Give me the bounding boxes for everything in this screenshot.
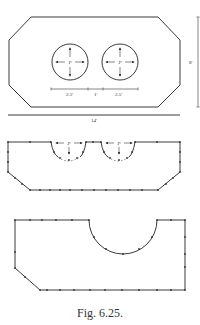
height-dimension: 8' — [189, 17, 200, 107]
pressure-label: P — [67, 141, 71, 146]
width-label: 14' — [91, 118, 97, 123]
mesh-nodes — [7, 141, 181, 191]
width-dimension: 14' — [8, 115, 180, 123]
middle-diagram: P P — [7, 141, 181, 191]
pressure-label: P — [117, 141, 121, 146]
figure-canvas: P P 2.5' 1' 2.5' 8' — [0, 0, 200, 325]
top-diagram: P P 2.5' 1' 2.5' 8' — [8, 17, 200, 123]
bottom-diagram — [14, 219, 186, 291]
hole-right: P — [102, 44, 138, 80]
notch-left-loads: P — [56, 141, 82, 154]
cutout-outline — [15, 220, 185, 290]
spacing-label-left: 2.5' — [66, 92, 73, 97]
notched-outline — [8, 142, 180, 190]
pressure-label: P — [118, 60, 122, 65]
pressure-label: P — [68, 60, 72, 65]
spacing-label-right: 2.5' — [115, 92, 122, 97]
spacing-dimension: 2.5' 1' 2.5' — [51, 88, 138, 98]
figure-caption: Fig. 6.25. — [0, 306, 200, 321]
spacing-label-middle: 1' — [94, 92, 98, 97]
height-label: 8' — [189, 60, 193, 65]
notch-right-loads: P — [106, 141, 132, 154]
mesh-nodes — [14, 219, 186, 291]
hole-left: P — [52, 44, 88, 80]
